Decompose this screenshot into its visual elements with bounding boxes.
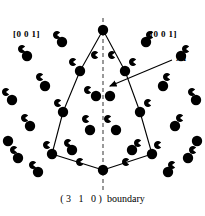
al-atom-label: Al	[176, 52, 186, 63]
caption-boundary-word: boundary	[107, 193, 145, 204]
atom-small-crescent	[134, 139, 141, 147]
atom-small-crescent	[104, 115, 111, 123]
atom-small-crescent	[53, 31, 60, 39]
atom-small-crescent	[144, 99, 151, 107]
atom-small-crescent	[176, 114, 183, 122]
atom-large	[40, 81, 50, 91]
atom-small-crescent	[69, 58, 76, 66]
atom-large	[170, 121, 180, 131]
atom-large	[58, 107, 68, 117]
atom-small-crescent	[189, 146, 196, 154]
atom-large	[85, 125, 95, 135]
grain-boundary-figure: [0 0 1] [0 0 1] Al (3 1 0) boundary	[0, 0, 205, 216]
figure-caption: (3 1 0) boundary	[0, 193, 205, 204]
atom-small-crescent	[84, 86, 91, 94]
direction-label-left: [0 0 1]	[13, 29, 40, 39]
atom-small-crescent	[64, 139, 71, 147]
atom-large	[25, 121, 35, 131]
atom-large	[13, 153, 23, 163]
atom-large	[91, 91, 101, 101]
direction-label-right: [0 0 1]	[150, 29, 177, 39]
atom-large	[47, 149, 57, 159]
atom-small-crescent	[82, 115, 89, 123]
atom-large	[135, 107, 145, 117]
atom-small-crescent	[108, 51, 115, 59]
atom-small-crescent	[18, 45, 25, 53]
atom-small-crescent	[29, 161, 36, 169]
atom-large	[147, 149, 157, 159]
caption-miller-indices: (3 1 0)	[60, 193, 104, 204]
atom-small-crescent	[154, 141, 161, 149]
atom-large	[127, 145, 137, 155]
atom-small-crescent	[36, 73, 43, 81]
atom-large	[183, 153, 193, 163]
atom-large	[3, 136, 13, 146]
atom-small-crescent	[43, 141, 50, 149]
atom-large	[120, 66, 130, 76]
atom-large	[111, 125, 121, 135]
atom-large	[7, 95, 17, 105]
atom-small-crescent	[76, 158, 83, 166]
atom-large	[191, 95, 201, 105]
atom-large	[158, 81, 168, 91]
atom-large	[98, 25, 108, 35]
atom-small-crescent	[21, 114, 28, 122]
atom-large	[75, 66, 85, 76]
atom-small-crescent	[10, 146, 17, 154]
atom-small-crescent	[129, 58, 136, 66]
atom-small-crescent	[163, 73, 170, 81]
atom-large	[192, 136, 202, 146]
atom-large	[105, 91, 115, 101]
atom-large	[98, 165, 108, 175]
atom-small-crescent	[188, 88, 195, 96]
atom-small-crescent	[54, 99, 61, 107]
atom-small-crescent	[2, 88, 9, 96]
atom-small-crescent	[91, 51, 98, 59]
